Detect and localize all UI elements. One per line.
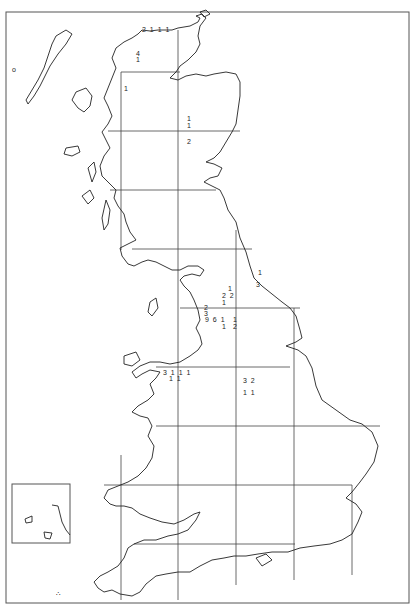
counts-midlands-b: 1 1 [243, 389, 256, 396]
counts-lancs-c: 9 6 1 [205, 316, 226, 323]
counts-lancs-d: 1 [222, 323, 227, 330]
counts-yorks-b: 2 [233, 323, 238, 330]
counts-durham-b: 3 [256, 281, 261, 288]
counts-grampian-b: 1 [187, 122, 192, 129]
counts-grampian-c: 2 [187, 138, 192, 145]
symbols-scilly-marker: ∴ [56, 590, 61, 597]
counts-sutherland-b: 1 [136, 56, 141, 63]
counts-yorks-a: 1 [233, 316, 238, 323]
grid-lines [104, 30, 380, 600]
counts-grampian-a: 1 [187, 115, 192, 122]
counts-ross-w: 1 [124, 85, 129, 92]
counts-durham-a: 1 [258, 269, 263, 276]
counts-midlands-a: 3 2 [243, 377, 256, 384]
counts-pennines-c: 1 [222, 299, 227, 306]
symbols-rockall-marker: o [12, 66, 17, 73]
counts-wales-n-b: 1 1 [169, 375, 182, 382]
counts-sutherland-n: 2 1 1 1 [142, 26, 170, 33]
coastline [26, 10, 378, 596]
counts-pennines-b: 2 2 [222, 292, 235, 299]
channel-islands-inset [12, 484, 70, 543]
counts-pennines-a: 1 [228, 285, 233, 292]
